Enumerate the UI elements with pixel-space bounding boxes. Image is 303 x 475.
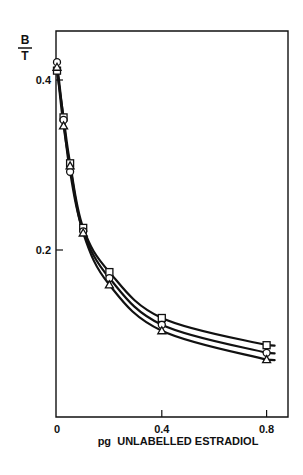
y-axis-label-numerator: B [21, 33, 30, 47]
plot-frame [56, 31, 288, 417]
x-tick-label: 0 [54, 423, 60, 435]
y-axis-label-denominator: T [21, 49, 29, 63]
curve-circle [57, 62, 275, 353]
axis-labels: B T pg UNLABELLED ESTRADIOL [18, 33, 259, 447]
x-tick-label: 0.4 [154, 423, 170, 435]
data-markers [53, 59, 271, 363]
axis-ticks: 00.40.80.20.4 [36, 74, 275, 435]
marker-square [263, 342, 270, 349]
x-axis-label: pg UNLABELLED ESTRADIOL [98, 435, 259, 447]
y-tick-label: 0.2 [36, 244, 51, 256]
x-tick-label: 0.8 [259, 423, 274, 435]
chart: 00.40.80.20.4 B T pg UNLABELLED ESTRADIO… [0, 0, 303, 475]
marker-square [158, 315, 165, 322]
plot-border [56, 31, 288, 417]
y-tick-label: 0.4 [36, 74, 52, 86]
curve-square [57, 71, 275, 346]
